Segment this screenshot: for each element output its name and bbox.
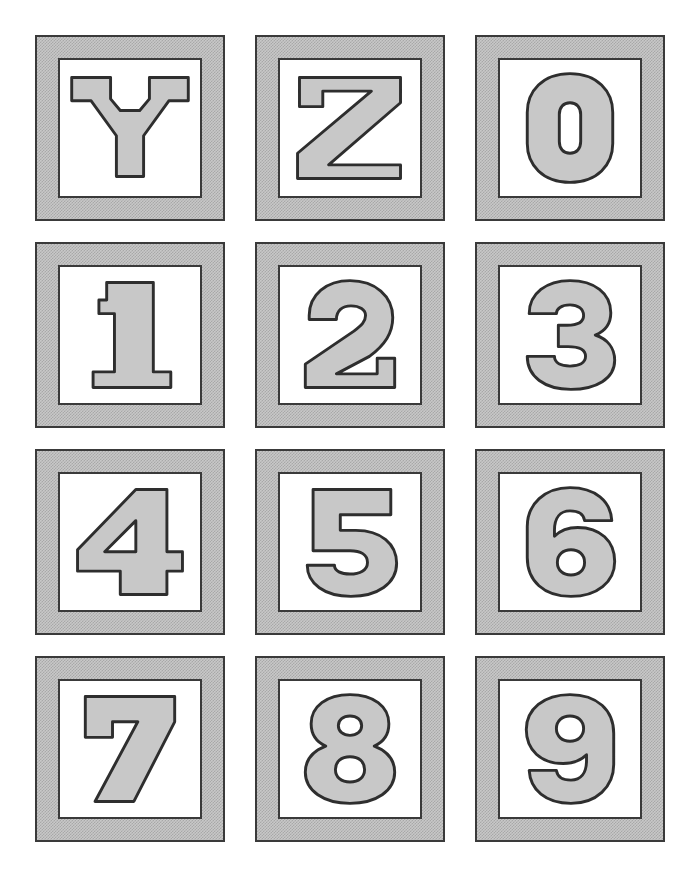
block-grid — [35, 35, 665, 843]
glyph-digit-9-icon — [500, 681, 640, 817]
glyph-digit-8-icon — [280, 681, 420, 817]
glyph-digit-7-icon — [60, 681, 200, 817]
glyph-digit-6-icon — [500, 474, 640, 610]
block-inner-panel — [498, 472, 642, 612]
block-inner-panel — [58, 58, 202, 198]
block-inner-panel — [58, 679, 202, 819]
block-digit-9[interactable] — [475, 656, 665, 842]
block-digit-0[interactable] — [475, 35, 665, 221]
block-digit-3[interactable] — [475, 242, 665, 428]
block-digit-7[interactable] — [35, 656, 225, 842]
glyph-digit-1-icon — [60, 267, 200, 403]
glyph-digit-4-icon — [60, 474, 200, 610]
glyph-letter-Y-icon — [60, 60, 200, 196]
block-inner-panel — [278, 58, 422, 198]
block-inner-panel — [498, 679, 642, 819]
block-digit-2[interactable] — [255, 242, 445, 428]
block-inner-panel — [498, 265, 642, 405]
block-inner-panel — [58, 265, 202, 405]
worksheet-page — [0, 0, 698, 869]
block-inner-panel — [58, 472, 202, 612]
block-digit-1[interactable] — [35, 242, 225, 428]
block-digit-5[interactable] — [255, 449, 445, 635]
block-digit-4[interactable] — [35, 449, 225, 635]
block-digit-8[interactable] — [255, 656, 445, 842]
block-inner-panel — [278, 679, 422, 819]
block-letter-Y[interactable] — [35, 35, 225, 221]
glyph-letter-Z-icon — [280, 60, 420, 196]
glyph-digit-5-icon — [280, 474, 420, 610]
glyph-digit-2-icon — [280, 267, 420, 403]
block-inner-panel — [278, 265, 422, 405]
block-letter-Z[interactable] — [255, 35, 445, 221]
glyph-digit-0-icon — [500, 60, 640, 196]
block-inner-panel — [278, 472, 422, 612]
block-digit-6[interactable] — [475, 449, 665, 635]
glyph-digit-3-icon — [500, 267, 640, 403]
block-inner-panel — [498, 58, 642, 198]
